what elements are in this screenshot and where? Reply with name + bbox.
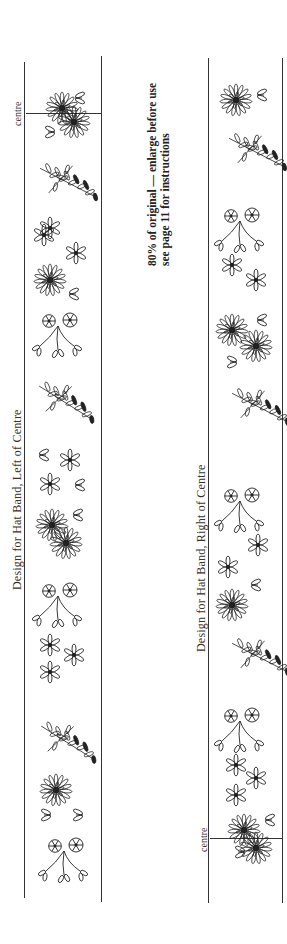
embroidery-motifs <box>0 0 287 944</box>
embroidery-pattern-page: centre Design for Hat Band, Left of Cent… <box>0 0 287 944</box>
band-left-motifs <box>32 91 99 883</box>
band-right-motifs <box>214 84 287 864</box>
